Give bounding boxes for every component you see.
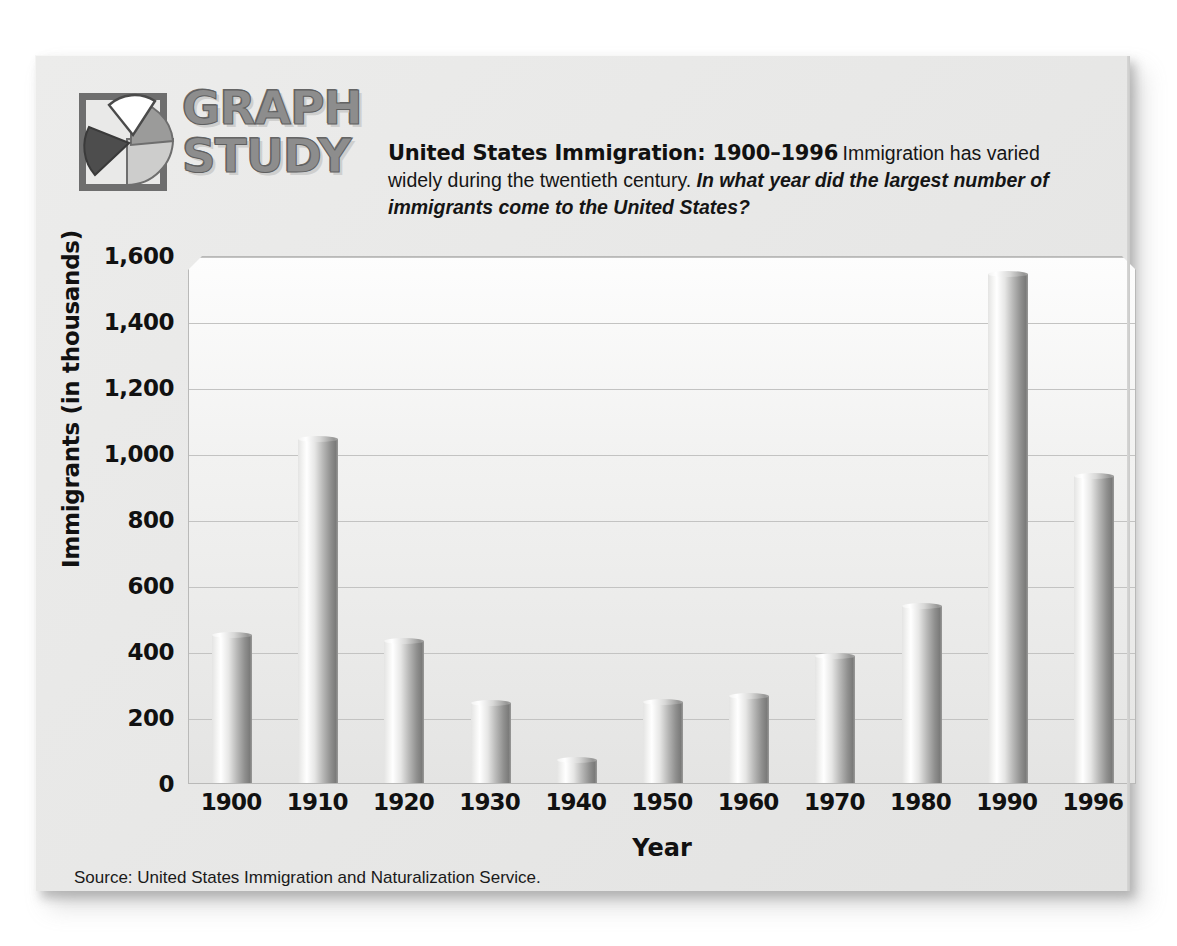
bar-cap <box>729 693 769 699</box>
bar <box>643 702 683 783</box>
x-axis-tick-label: 1900 <box>201 789 262 815</box>
bar <box>988 274 1028 783</box>
y-axis-tick-label: 200 <box>127 705 174 731</box>
bar-cap <box>298 436 338 442</box>
x-axis-tick-label: 1996 <box>1062 789 1123 815</box>
bar <box>212 635 252 783</box>
x-axis-tick-label: 1990 <box>976 789 1037 815</box>
bar <box>815 656 855 783</box>
bar-cap <box>557 757 597 763</box>
bar <box>729 696 769 783</box>
bar <box>384 641 424 783</box>
bar-cap <box>902 603 942 609</box>
x-axis-tick-label: 1980 <box>890 789 951 815</box>
y-axis-tick-label: 1,000 <box>104 441 174 467</box>
x-axis-ticks: 1900191019201930194019501960197019801990… <box>188 789 1136 829</box>
bar-series <box>189 257 1135 783</box>
bar-cap <box>1074 473 1114 479</box>
y-axis-tick-label: 1,600 <box>104 243 174 269</box>
bar <box>298 439 338 783</box>
y-axis-tick-label: 600 <box>127 573 174 599</box>
y-axis-tick-label: 0 <box>158 771 174 797</box>
bar <box>1074 476 1114 783</box>
bar-chart: 02004006008001,0001,2001,4001,600 Immigr… <box>36 56 1129 891</box>
bar-cap <box>643 699 683 705</box>
bar <box>902 606 942 783</box>
bar-cap <box>815 653 855 659</box>
bar <box>557 760 597 783</box>
bar-cap <box>384 638 424 644</box>
bar-cap <box>471 700 511 706</box>
y-axis-label: Immigrants (in thousands) <box>58 189 84 609</box>
x-axis-tick-label: 1950 <box>632 789 693 815</box>
bar <box>471 703 511 783</box>
source-note: Source: United States Immigration and Na… <box>74 868 541 888</box>
x-axis-tick-label: 1940 <box>545 789 606 815</box>
bar-cap <box>212 632 252 638</box>
plot-area <box>188 256 1136 784</box>
x-axis-label: Year <box>188 834 1136 862</box>
y-axis-tick-label: 1,200 <box>104 375 174 401</box>
x-axis-tick-label: 1930 <box>459 789 520 815</box>
bar-cap <box>988 271 1028 277</box>
x-axis-tick-label: 1920 <box>373 789 434 815</box>
x-axis-tick-label: 1910 <box>287 789 348 815</box>
x-axis-tick-label: 1960 <box>718 789 779 815</box>
y-axis-tick-label: 400 <box>127 639 174 665</box>
graph-study-card: GRAPH STUDY United States Immigration: 1… <box>35 55 1129 891</box>
y-axis-tick-label: 800 <box>127 507 174 533</box>
y-axis-tick-label: 1,400 <box>104 309 174 335</box>
x-axis-tick-label: 1970 <box>804 789 865 815</box>
